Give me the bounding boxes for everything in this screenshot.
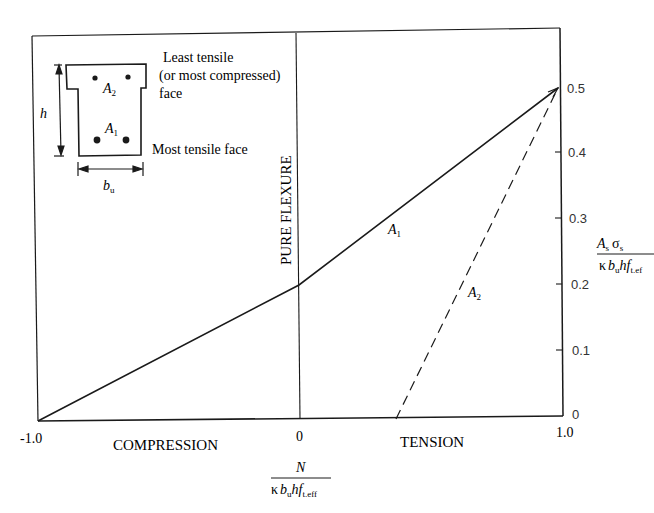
x-tick-labels: -1.0 0 1.0 (20, 425, 574, 446)
y-tick-0.3: 0.3 (569, 211, 587, 226)
inset-bu-label: bu (103, 178, 115, 195)
tension-label: TENSION (400, 434, 464, 450)
y-axis-label: Asσs κbuhft.ef (596, 236, 654, 275)
y-tick-0.4: 0.4 (568, 145, 586, 160)
svg-text:N: N (295, 460, 306, 475)
x-tick-1: 1.0 (556, 425, 574, 440)
y-tick-0.1: 0.1 (572, 343, 590, 358)
y-tick-0.2: 0.2 (571, 277, 589, 292)
series-a1-label: A1 (387, 222, 401, 239)
inset-t-section (66, 64, 146, 156)
chart-canvas: Least tensile (or most compressed) face … (0, 0, 654, 513)
inset-least-tensile-label: Least tensile (163, 50, 233, 65)
series-a2-line (396, 88, 558, 419)
inset-face-label: face (159, 86, 182, 101)
inset-compressed-label: (or most compressed) (159, 68, 281, 84)
x-tick-neg1: -1.0 (20, 431, 42, 446)
pure-flexure-line (296, 33, 300, 419)
svg-text:Asσs: Asσs (596, 236, 624, 253)
series-a2-label: A2 (467, 285, 481, 302)
y-tick-0.5: 0.5 (567, 81, 585, 96)
inset-a2-label: A2 (102, 81, 116, 98)
height-dimension (54, 65, 64, 156)
svg-text:κbuhft.ef: κbuhft.ef (599, 258, 642, 275)
inset-h-label: h (40, 106, 47, 121)
compression-label: COMPRESSION (113, 437, 218, 453)
pure-flexure-label: PURE FLEXURE (278, 155, 294, 265)
x-axis-label: N κbuhft.eff (271, 460, 331, 499)
x-tick-0: 0 (296, 429, 303, 444)
y-tick-labels: 0.5 0.4 0.3 0.2 0.1 0 (567, 81, 590, 422)
inset-most-tensile-label: Most tensile face (152, 142, 248, 157)
inset-a1-label: A1 (104, 121, 118, 138)
y-tick-0: 0 (572, 407, 579, 422)
width-dimension (78, 162, 143, 176)
svg-text:κbuhft.eff: κbuhft.eff (271, 482, 317, 499)
